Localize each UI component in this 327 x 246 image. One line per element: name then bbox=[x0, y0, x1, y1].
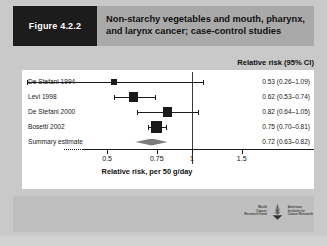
point-estimate-box bbox=[111, 79, 117, 85]
risk-column-header: Relative risk (95% CI) bbox=[214, 58, 314, 67]
risk-value-label: 0.82 (0.64–1.05) bbox=[262, 108, 310, 115]
study-label: Summary estimate bbox=[28, 138, 83, 145]
confidence-interval-cap bbox=[137, 110, 138, 115]
confidence-interval-cap bbox=[114, 95, 115, 100]
point-estimate-box bbox=[163, 107, 172, 116]
figure-header: Figure 4.2.2 Non-starchy vegetables and … bbox=[13, 6, 314, 46]
study-label: Bosetti 2002 bbox=[28, 123, 65, 130]
page-bottom-strip bbox=[0, 236, 327, 246]
risk-value-label: 0.75 (0.70–0.81) bbox=[262, 123, 310, 130]
wcrf-logo-text: World Cancer Research Fund bbox=[244, 206, 266, 218]
figure-number-badge: Figure 4.2.2 bbox=[13, 6, 97, 46]
point-estimate-box bbox=[129, 92, 139, 102]
risk-value-label: 0.53 (0.26–1.09) bbox=[262, 78, 310, 85]
x-axis-tick-label: 1 bbox=[190, 155, 194, 162]
confidence-interval-cap bbox=[198, 110, 199, 115]
forest-plot-panel: Relative risk, per 50 g/day De Stefani 1… bbox=[22, 70, 314, 189]
point-estimate-box bbox=[151, 121, 162, 132]
x-axis-tick-label: 0.5 bbox=[102, 155, 112, 162]
x-axis-tick bbox=[192, 150, 193, 154]
wcrf-aicr-logo-mark bbox=[270, 203, 285, 220]
confidence-interval-cap bbox=[148, 125, 149, 130]
aicr-logo-text: American Institute for Cancer Research bbox=[288, 206, 313, 218]
axis-break-dotted bbox=[64, 149, 83, 150]
confidence-interval-cap bbox=[155, 95, 156, 100]
study-label: De Stefani 2000 bbox=[28, 108, 75, 115]
figure-title: Non-starchy vegetables and mouth, pharyn… bbox=[97, 6, 314, 46]
x-axis-line bbox=[82, 149, 314, 150]
confidence-interval-cap bbox=[166, 125, 167, 130]
study-label: De Stefani 1994 bbox=[28, 78, 75, 85]
organisation-logos: World Cancer Research Fund American Inst… bbox=[244, 203, 313, 220]
confidence-interval-cap bbox=[203, 80, 204, 85]
x-axis-tick bbox=[157, 150, 158, 154]
x-axis-tick-label: 0.75 bbox=[150, 155, 164, 162]
x-axis-tick-label: 1.5 bbox=[237, 155, 247, 162]
summary-diamond bbox=[135, 139, 167, 146]
risk-value-label: 0.62 (0.53–0.74) bbox=[262, 93, 310, 100]
risk-value-label: 0.72 (0.63–0.82) bbox=[262, 138, 310, 145]
x-axis-tick bbox=[107, 150, 108, 154]
figure-page: Figure 4.2.2 Non-starchy vegetables and … bbox=[0, 0, 327, 246]
x-axis-tick bbox=[242, 150, 243, 154]
x-axis-caption: Relative risk, per 50 g/day bbox=[22, 167, 272, 176]
study-label: Levi 1998 bbox=[28, 93, 57, 100]
